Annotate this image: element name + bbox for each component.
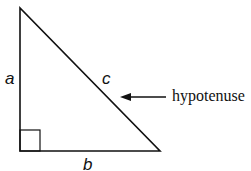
arrow-left-icon [120, 93, 131, 101]
side-b-label: b [83, 155, 92, 171]
right-angle-marker [20, 130, 40, 151]
hypotenuse-annotation: hypotenuse [172, 87, 245, 105]
side-c-label: c [102, 69, 111, 88]
right-triangle-diagram: a b c hypotenuse [0, 0, 251, 171]
side-a-label: a [5, 69, 14, 88]
triangle [20, 8, 160, 151]
